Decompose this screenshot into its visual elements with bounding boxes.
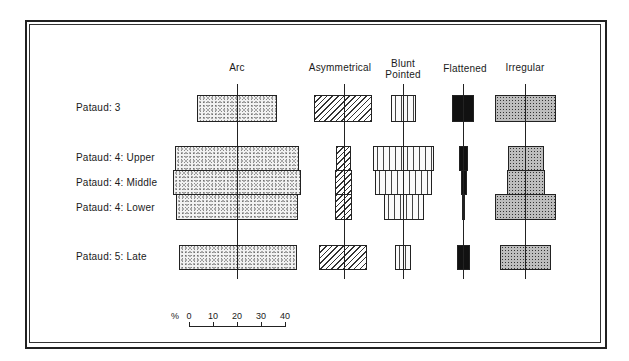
scale-tick-40	[285, 322, 286, 326]
scale-tick-label-30: 30	[256, 311, 266, 321]
row-label-pataud-4-lower: Pataud: 4: Lower	[76, 202, 155, 213]
bar-asymmetrical-pataud-5-late	[319, 245, 367, 270]
header-blunt-pointed: Blunt Pointed	[385, 58, 420, 80]
scale-tick-label-40: 40	[280, 311, 290, 321]
scale-tick-10	[213, 322, 214, 326]
header-blunt-line1: Blunt	[385, 58, 420, 69]
row-label-pataud-4-middle: Pataud: 4: Middle	[76, 177, 157, 188]
scale-tick-0	[189, 322, 190, 326]
bar-irregular-pataud-4-middle	[507, 170, 545, 195]
scale-tick-label-20: 20	[232, 311, 242, 321]
row-label-pataud-4-upper: Pataud: 4: Upper	[76, 152, 155, 163]
bar-arc-pataud-5-late	[179, 245, 297, 270]
center-line-arc	[237, 84, 238, 279]
header-asymmetrical: Asymmetrical	[309, 62, 371, 73]
center-line-irregular	[525, 84, 526, 279]
bar-irregular-pataud-4-upper	[508, 146, 544, 171]
header-flattened: Flattened	[443, 63, 487, 74]
bar-blunt-pointed-pataud-4-lower	[384, 194, 424, 220]
header-irregular: Irregular	[505, 62, 544, 73]
scale-tick-30	[261, 322, 262, 326]
scale-tick-label-10: 10	[208, 311, 218, 321]
center-line-blunt-pointed	[403, 84, 404, 279]
row-label-pataud-3: Pataud: 3	[76, 102, 121, 113]
center-line-flattened	[463, 84, 464, 279]
header-blunt-line2: Pointed	[385, 69, 420, 80]
scale-axis-line	[189, 326, 286, 327]
center-line-asymmetrical	[344, 84, 345, 279]
bar-asymmetrical-pataud-3	[314, 95, 372, 122]
header-arc: Arc	[229, 62, 245, 73]
row-label-pataud-5-late: Pataud: 5: Late	[76, 251, 147, 262]
bar-flattened-pataud-4-middle	[461, 170, 467, 195]
scale-tick-label-0: 0	[186, 311, 191, 321]
scale-unit-label: %	[171, 311, 179, 321]
scale-tick-20	[237, 322, 238, 326]
